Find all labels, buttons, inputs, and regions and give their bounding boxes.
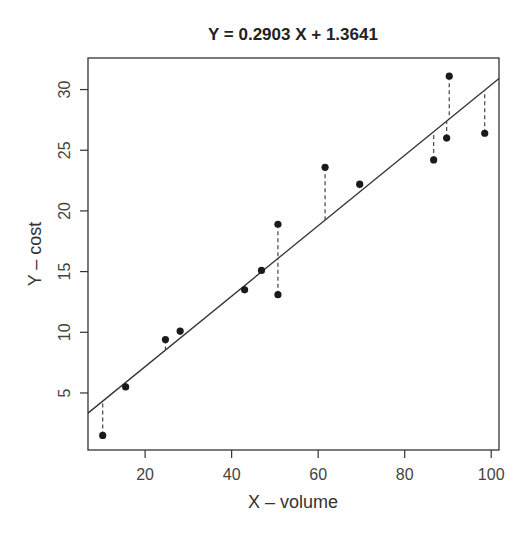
y-tick-label: 15 (56, 263, 73, 281)
x-tick-label: 20 (136, 466, 154, 483)
plot-frame (88, 58, 499, 450)
chart-title: Y = 0.2903 X + 1.3641 (208, 25, 378, 44)
data-point (481, 130, 488, 137)
y-axis: 51015202530 (56, 81, 88, 398)
y-tick-label: 20 (56, 202, 73, 220)
data-point (274, 291, 281, 298)
data-point (443, 134, 450, 141)
x-tick-label: 80 (396, 466, 414, 483)
y-tick-label: 25 (56, 141, 73, 159)
data-point (258, 267, 265, 274)
y-axis-label: Y – cost (25, 222, 45, 287)
x-tick-label: 40 (223, 466, 241, 483)
data-point (241, 286, 248, 293)
data-point (162, 336, 169, 343)
y-tick-label: 10 (56, 323, 73, 341)
data-point (446, 73, 453, 80)
data-point (99, 432, 106, 439)
plot-area (88, 58, 499, 450)
data-point (321, 164, 328, 171)
scatter-chart: Y = 0.2903 X + 1.3641 20406080100 510152… (0, 0, 530, 533)
regression-line (88, 78, 499, 413)
data-point (356, 181, 363, 188)
y-tick-label: 30 (56, 81, 73, 99)
data-point (430, 156, 437, 163)
x-tick-label: 60 (309, 466, 327, 483)
y-tick-label: 5 (56, 388, 73, 397)
data-point (274, 221, 281, 228)
x-axis: 20406080100 (136, 450, 504, 483)
x-tick-label: 100 (478, 466, 505, 483)
x-axis-label: X – volume (248, 492, 338, 512)
data-point (122, 383, 129, 390)
data-point (177, 327, 184, 334)
